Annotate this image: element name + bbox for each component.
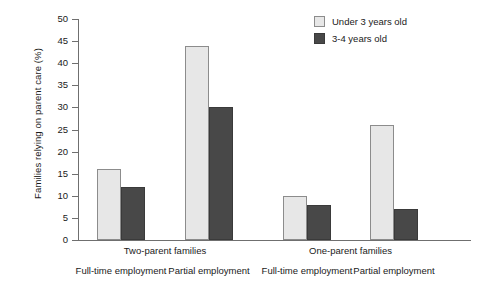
bar-3-4-2 — [307, 205, 331, 240]
bar-under-3-3 — [370, 125, 394, 240]
bar-under-3-1 — [185, 46, 209, 240]
x-sub-label-3: Partial employment — [309, 266, 479, 276]
bar-under-3-2 — [283, 196, 307, 240]
x-group-label-0: Two-parent families — [85, 246, 245, 256]
chart-legend: Under 3 years old3-4 years old — [314, 13, 407, 47]
y-tick-label: 35 — [0, 80, 68, 90]
bar-3-4-1 — [209, 107, 233, 240]
bar-under-3-0 — [97, 169, 121, 240]
y-tick-label: 10 — [0, 191, 68, 201]
y-tick-label: 5 — [0, 213, 68, 223]
legend-item-1[interactable]: 3-4 years old — [314, 30, 407, 47]
light-gray-swatch-icon — [314, 16, 325, 27]
plot-area — [78, 19, 471, 240]
y-tick-label: 45 — [0, 36, 68, 46]
y-tick-label: 15 — [0, 169, 68, 179]
x-axis-line — [78, 240, 471, 241]
legend-item-0[interactable]: Under 3 years old — [314, 13, 407, 30]
y-tick-label: 0 — [0, 235, 68, 245]
dark-gray-swatch-icon — [314, 33, 325, 44]
bar-3-4-3 — [394, 209, 418, 240]
legend-item-label: Under 3 years old — [332, 17, 407, 27]
y-tick-label: 40 — [0, 58, 68, 68]
y-tick-label: 20 — [0, 147, 68, 157]
y-tick-label: 25 — [0, 125, 68, 135]
y-tick-label: 30 — [0, 102, 68, 112]
y-tick-mark — [72, 240, 78, 241]
bar-chart: Families relying on parent care (%) 5045… — [0, 0, 482, 283]
y-tick-label: 50 — [0, 14, 68, 24]
x-group-label-1: One-parent families — [271, 246, 431, 256]
legend-item-label: 3-4 years old — [332, 34, 387, 44]
bar-3-4-0 — [121, 187, 145, 240]
